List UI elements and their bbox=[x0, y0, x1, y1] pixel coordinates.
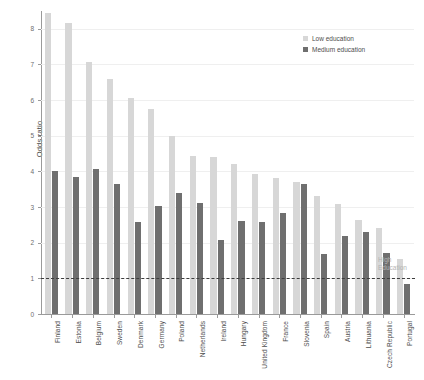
reference-line-high-education bbox=[41, 278, 415, 279]
x-tick-label-denmark: Denmark bbox=[137, 321, 144, 348]
bar-low-education bbox=[273, 178, 279, 314]
bar-low-education bbox=[45, 13, 51, 314]
y-tick-label: 8 bbox=[12, 25, 34, 32]
bar-medium-education bbox=[238, 221, 244, 314]
x-tick-mark bbox=[155, 315, 156, 318]
x-tick-mark bbox=[72, 315, 73, 318]
bar-medium-education bbox=[176, 193, 182, 314]
y-tick-label: 4 bbox=[12, 168, 34, 175]
x-tick-label-estonia: Estonia bbox=[75, 321, 82, 343]
gridline bbox=[41, 136, 414, 137]
annotation-line: Education bbox=[378, 264, 424, 272]
bar-low-education bbox=[128, 98, 134, 314]
x-tick-label-finland: Finland bbox=[54, 321, 61, 343]
legend-item: Low education bbox=[303, 33, 365, 44]
bar-low-education bbox=[231, 164, 237, 314]
bar-low-education bbox=[86, 62, 92, 314]
gridline bbox=[41, 100, 414, 101]
gridline bbox=[41, 29, 414, 30]
bar-medium-education bbox=[363, 232, 369, 314]
x-tick-label-sweden: Sweden bbox=[116, 321, 123, 345]
x-tick-label-hungary: Hungary bbox=[240, 321, 247, 346]
x-tick-mark bbox=[300, 315, 301, 318]
y-tick-mark bbox=[38, 29, 41, 30]
annotation-line: High bbox=[378, 256, 424, 264]
x-tick-label-belgium: Belgium bbox=[95, 321, 102, 345]
bar-medium-education bbox=[197, 203, 203, 314]
bar-low-education bbox=[210, 157, 216, 314]
reference-line-annotation: HighEducation bbox=[378, 256, 424, 272]
x-tick-label-slovenia: Slovenia bbox=[303, 321, 310, 347]
bar-low-education bbox=[355, 220, 361, 314]
legend-swatch-icon bbox=[303, 36, 308, 41]
bar-medium-education bbox=[218, 240, 224, 314]
legend-swatch-icon bbox=[303, 47, 308, 52]
bar-medium-education bbox=[155, 206, 161, 314]
chart-legend: Low educationMedium education bbox=[303, 33, 365, 55]
x-tick-mark bbox=[383, 315, 384, 318]
x-tick-mark bbox=[114, 315, 115, 318]
x-tick-mark bbox=[362, 315, 363, 318]
y-tick-label: 2 bbox=[12, 239, 34, 246]
bar-low-education bbox=[190, 156, 196, 314]
x-tick-mark bbox=[404, 315, 405, 318]
x-tick-mark bbox=[134, 315, 135, 318]
x-tick-mark bbox=[217, 315, 218, 318]
bar-medium-education bbox=[280, 213, 286, 314]
y-tick-mark bbox=[38, 136, 41, 137]
bar-medium-education bbox=[321, 254, 327, 314]
bar-medium-education bbox=[93, 169, 99, 314]
bar-low-education bbox=[169, 136, 175, 314]
y-tick-label: 1 bbox=[12, 275, 34, 282]
bar-medium-education bbox=[73, 177, 79, 314]
x-tick-label-netherlands: Netherlands bbox=[199, 321, 206, 357]
x-tick-label-france: France bbox=[282, 321, 289, 342]
x-tick-mark bbox=[321, 315, 322, 318]
gridline bbox=[41, 64, 414, 65]
y-tick-label: 5 bbox=[12, 132, 34, 139]
plot-area bbox=[41, 11, 414, 314]
x-tick-label-poland: Poland bbox=[178, 321, 185, 342]
bar-low-education bbox=[314, 196, 320, 314]
x-tick-mark bbox=[176, 315, 177, 318]
x-tick-mark bbox=[51, 315, 52, 318]
bar-low-education bbox=[65, 23, 71, 314]
bar-medium-education bbox=[259, 222, 265, 314]
x-tick-mark bbox=[259, 315, 260, 318]
bar-low-education bbox=[252, 174, 258, 314]
x-tick-label-spain: Spain bbox=[323, 321, 330, 338]
x-tick-label-austria: Austria bbox=[344, 321, 351, 342]
legend-item: Medium education bbox=[303, 44, 365, 55]
x-tick-label-lithuania: Lithuania bbox=[365, 321, 372, 348]
x-tick-label-ireland: Ireland bbox=[220, 321, 227, 342]
bar-medium-education bbox=[404, 284, 410, 314]
y-tick-label: 0 bbox=[12, 311, 34, 318]
x-tick-mark bbox=[196, 315, 197, 318]
y-tick-mark bbox=[38, 243, 41, 244]
x-tick-mark bbox=[341, 315, 342, 318]
bar-medium-education bbox=[114, 184, 120, 314]
legend-label: Low education bbox=[312, 35, 354, 42]
x-tick-mark bbox=[93, 315, 94, 318]
legend-label: Medium education bbox=[312, 46, 365, 53]
x-tick-label-portugal: Portugal bbox=[406, 321, 413, 346]
y-tick-mark bbox=[38, 64, 41, 65]
x-axis-line bbox=[41, 314, 415, 315]
x-tick-label-united-kingdom: United Kingdom bbox=[261, 321, 268, 369]
y-tick-mark bbox=[38, 171, 41, 172]
x-tick-mark bbox=[279, 315, 280, 318]
odds-ratio-bar-chart: Odds ratio 012345678 FinlandEstoniaBelgi… bbox=[0, 0, 424, 380]
bar-medium-education bbox=[52, 171, 58, 314]
y-tick-mark bbox=[38, 314, 41, 315]
bar-low-education bbox=[293, 182, 299, 314]
bar-medium-education bbox=[342, 236, 348, 314]
bar-medium-education bbox=[301, 184, 307, 314]
y-tick-mark bbox=[38, 100, 41, 101]
bar-low-education bbox=[148, 109, 154, 314]
x-tick-mark bbox=[238, 315, 239, 318]
bar-medium-education bbox=[135, 222, 141, 314]
x-tick-label-czech-republic: Czech Republic bbox=[386, 321, 393, 368]
bar-low-education bbox=[335, 204, 341, 315]
y-tick-label: 3 bbox=[12, 204, 34, 211]
x-tick-label-germany: Germany bbox=[158, 321, 165, 348]
